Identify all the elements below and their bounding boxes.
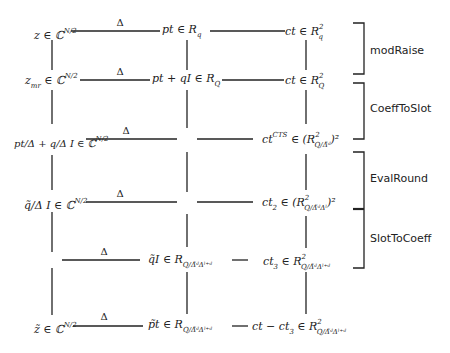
- node-ct-row1: ct ∈ R2q: [285, 20, 323, 44]
- edge-label-delta: Δ: [116, 17, 123, 28]
- node-ct-row5: ct3 ∈ R2Q/Δ̃ᵈΔˡ⁺ᵈ: [263, 250, 330, 274]
- node-ct-row4: ct2 ∈ (R2Q/Δ̃ᵈΔˡ)²: [262, 191, 336, 215]
- edge-label-delta: Δ: [116, 188, 123, 199]
- edge-label-delta: Δ: [100, 311, 107, 322]
- stage-label-slottocoeff: SlotToCoeff: [370, 232, 431, 245]
- edge-label-delta: Δ: [116, 66, 123, 77]
- edge-label-delta: Δ: [100, 246, 107, 257]
- node-slot-row1: z ∈ ℂN/2: [34, 24, 77, 43]
- edge-label-delta: Δ: [122, 125, 129, 136]
- stage-label-modraise: modRaise: [370, 44, 424, 57]
- node-slot-row4: q̃/Δ I ∈ ℂN/2: [24, 194, 87, 213]
- node-pt-row6: p̃t ∈ RQ/Δ̃ᵈΔˡ⁺ᵈ: [148, 318, 212, 337]
- node-pt-row2: pt + qI ∈ RQ: [152, 72, 220, 91]
- node-ct-row3: ctCTS ∈ (R2Q/Δ̃ᵈ)²: [262, 128, 339, 152]
- bracket-coefftoslot: [353, 83, 364, 139]
- node-slot-row6: z̃ ∈ ℂN/2: [34, 318, 77, 337]
- node-slot-row2: zmr ∈ ℂN/2: [25, 69, 78, 93]
- node-ct-row6: ct − ct3 ∈ R2Q/Δ̃ᵈΔˡ⁺ᵈ: [252, 315, 346, 339]
- node-pt-row1: pt ∈ Rq: [162, 23, 201, 42]
- bootstrapping-diagram: Δ Δ Δ Δ Δ Δ z ∈ ℂN/2 pt ∈ Rq ct ∈ R2q zm…: [0, 0, 450, 353]
- node-slot-row3: pt/Δ + q/Δ I ∈ ℂN/2: [14, 132, 109, 151]
- bracket-modraise: [353, 23, 364, 74]
- node-pt-row5: q̃I ∈ RQ/Δ̃ᵈΔˡ⁺ᵈ: [148, 253, 212, 272]
- stage-label-evalround: EvalRound: [370, 172, 428, 185]
- stage-label-coefftoslot: CoeffToSlot: [370, 102, 431, 115]
- node-ct-row2: ct ∈ R2Q: [285, 69, 324, 93]
